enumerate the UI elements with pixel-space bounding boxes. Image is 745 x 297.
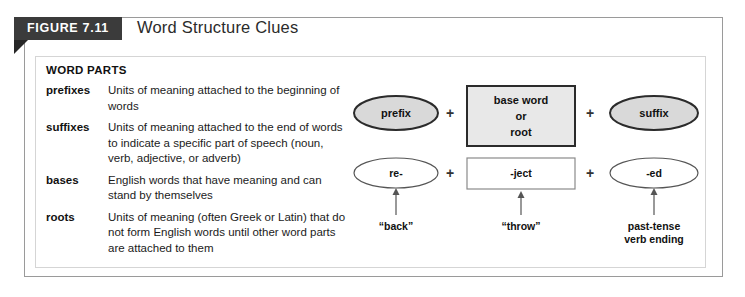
term-bases: bases: [46, 173, 108, 204]
base-caption-arrow: [518, 191, 525, 215]
definition-roots: Units of meaning (often Greek or Latin) …: [108, 210, 346, 257]
figure-number-tab: FIGURE 7.11: [14, 17, 122, 40]
prefix-ellipse-label: prefix: [381, 107, 412, 119]
example-prefix-label: re-: [389, 167, 403, 179]
definition-suffixes: Units of meaning attached to the end of …: [108, 120, 346, 167]
base-word-box-label-line3: root: [510, 126, 532, 138]
prefix-meaning-caption: “back”: [379, 220, 413, 232]
suffix-ellipse-label: suffix: [639, 107, 669, 119]
definition-row-suffixes: suffixes Units of meaning attached to th…: [46, 120, 346, 167]
example-base-label: -ject: [510, 167, 532, 179]
example-operator-plus-2: +: [586, 165, 594, 181]
word-parts-heading: WORD PARTS: [46, 64, 346, 76]
base-meaning-caption: “throw”: [501, 220, 540, 232]
term-suffixes: suffixes: [46, 120, 108, 167]
word-parts-definition-list: WORD PARTS prefixes Units of meaning att…: [46, 64, 346, 262]
base-word-box-label-line2: or: [516, 110, 528, 122]
term-prefixes: prefixes: [46, 83, 108, 114]
definition-row-roots: roots Units of meaning (often Greek or L…: [46, 210, 346, 257]
word-structure-diagram: prefix + base word or root + suffix re- …: [352, 80, 702, 255]
base-word-box-label-line1: base word: [494, 94, 548, 106]
suffix-meaning-caption-line1: past-tense: [628, 220, 681, 232]
suffix-caption-arrow: [651, 188, 658, 215]
definition-row-bases: bases English words that have meaning an…: [46, 173, 346, 204]
prefix-caption-arrow: [393, 188, 400, 215]
suffix-meaning-caption-line2: verb ending: [624, 233, 684, 245]
figure-number-label: FIGURE 7.11: [14, 17, 122, 40]
figure-tab-fold-corner: [14, 40, 28, 54]
term-roots: roots: [46, 210, 108, 257]
example-suffix-label: -ed: [646, 167, 662, 179]
example-operator-plus-1: +: [446, 165, 454, 181]
definition-bases: English words that have meaning and can …: [108, 173, 346, 204]
operator-plus-2: +: [586, 105, 594, 121]
operator-plus-1: +: [446, 105, 454, 121]
definition-row-prefixes: prefixes Units of meaning attached to th…: [46, 83, 346, 114]
definition-prefixes: Units of meaning attached to the beginni…: [108, 83, 346, 114]
figure-title: Word Structure Clues: [137, 18, 298, 37]
